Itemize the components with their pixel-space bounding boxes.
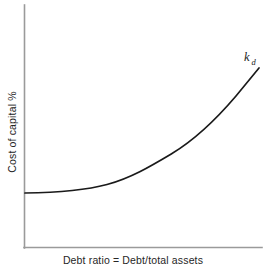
x-axis-label: Debt ratio = Debt/total assets [63, 254, 203, 266]
kd-curve [25, 68, 259, 193]
kd-label-subscript: d [252, 57, 257, 67]
y-axis-label: Cost of capital % [6, 91, 18, 172]
kd-curve-label: k d [244, 50, 257, 67]
kd-label-k: k [244, 50, 250, 64]
cost-of-capital-chart: k d Cost of capital % Debt ratio = Debt/… [0, 0, 266, 269]
chart-figure: k d Cost of capital % Debt ratio = Debt/… [0, 0, 266, 269]
